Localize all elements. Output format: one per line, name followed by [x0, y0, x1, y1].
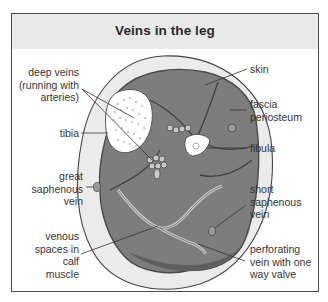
label-line: great	[10, 170, 83, 183]
label-line: deep veins	[10, 66, 79, 79]
label-fascia-periosteum: fascia periosteum	[250, 98, 302, 123]
label-skin: skin	[250, 63, 269, 76]
label-line: vein with one	[250, 256, 311, 269]
label-tibia: tibia	[10, 127, 79, 140]
label-line: vein	[10, 195, 83, 208]
label-line: vein	[250, 208, 301, 221]
label-line: venous	[10, 230, 79, 243]
fascia-node	[228, 124, 236, 132]
label-fibula: fibula	[250, 142, 275, 155]
label-line: arteries)	[10, 91, 79, 104]
label-line: calf	[10, 255, 79, 268]
label-deep-veins: deep veins (running with arteries)	[10, 66, 79, 104]
label-line: spaces in	[10, 243, 79, 256]
label-venous-spaces: venous spaces in calf muscle	[10, 230, 79, 280]
great-saphenous-vein	[94, 183, 101, 192]
label-line: saphenous	[250, 196, 301, 209]
label-short-saphenous-vein: short saphenous vein	[250, 183, 301, 221]
label-perforating-vein: perforating vein with one way valve	[250, 243, 311, 281]
label-line: periosteum	[250, 111, 302, 124]
label-line: perforating	[250, 243, 311, 256]
label-line: muscle	[10, 268, 79, 281]
label-line: way valve	[250, 268, 311, 281]
label-line: fascia	[250, 98, 302, 111]
label-line: short	[250, 183, 301, 196]
label-great-saphenous-vein: great saphenous vein	[10, 170, 83, 208]
short-saphenous-vein	[209, 227, 216, 236]
label-line: saphenous	[10, 183, 83, 196]
label-line: (running with	[10, 79, 79, 92]
